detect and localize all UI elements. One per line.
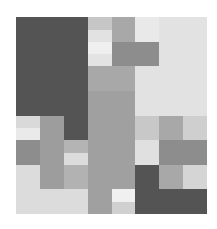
heatmap-cell xyxy=(112,66,136,91)
heatmap-cell xyxy=(135,189,159,214)
heatmap-cell xyxy=(88,140,112,165)
heatmap-cell xyxy=(16,66,40,91)
heatmap-cell xyxy=(16,189,40,214)
heatmap-cell xyxy=(135,17,159,42)
heatmap-cell xyxy=(112,189,136,214)
heatmap-cell xyxy=(183,91,207,116)
heatmap-cell xyxy=(159,66,183,91)
heatmap-cell xyxy=(88,42,112,67)
heatmap-cell xyxy=(159,91,183,116)
heatmap-cell xyxy=(183,116,207,141)
heatmap-cell xyxy=(88,17,112,42)
heatmap-cell xyxy=(16,116,40,141)
heatmap-cell xyxy=(64,189,88,214)
heatmap-cell xyxy=(183,42,207,67)
heatmap-cell xyxy=(135,165,159,190)
heatmap-cell xyxy=(16,91,40,116)
heatmap-cell xyxy=(88,66,112,91)
heatmap-cell xyxy=(40,17,64,42)
heatmap-cell xyxy=(88,165,112,190)
heatmap-cell xyxy=(64,116,88,141)
heatmap-cell xyxy=(64,66,88,91)
heatmap-cell xyxy=(40,42,64,67)
heatmap-cell xyxy=(135,42,159,67)
heatmap-cell xyxy=(159,17,183,42)
heatmap-cell xyxy=(159,42,183,67)
figure-canvas xyxy=(0,0,217,229)
heatmap-cell xyxy=(112,165,136,190)
heatmap-cell xyxy=(40,140,64,165)
heatmap-cell xyxy=(159,116,183,141)
heatmap-cell xyxy=(112,17,136,42)
heatmap-cell xyxy=(40,91,64,116)
heatmap-cell xyxy=(183,17,207,42)
heatmap-cell xyxy=(64,140,88,165)
heatmap-cell xyxy=(64,17,88,42)
heatmap-cell xyxy=(112,91,136,116)
heatmap-cell xyxy=(159,140,183,165)
heatmap-grid xyxy=(16,17,207,214)
heatmap-cell xyxy=(183,165,207,190)
heatmap-cell xyxy=(135,91,159,116)
heatmap-cell xyxy=(112,116,136,141)
heatmap-cell xyxy=(16,42,40,67)
heatmap-cell xyxy=(40,165,64,190)
heatmap-cell xyxy=(88,116,112,141)
heatmap-cell xyxy=(16,140,40,165)
heatmap-cell xyxy=(40,116,64,141)
heatmap-cell xyxy=(183,189,207,214)
heatmap-cell xyxy=(183,140,207,165)
heatmap-cell xyxy=(112,42,136,67)
heatmap-cell xyxy=(159,165,183,190)
heatmap-cell xyxy=(88,189,112,214)
heatmap-cell xyxy=(64,91,88,116)
heatmap-cell xyxy=(135,116,159,141)
heatmap-cell xyxy=(40,66,64,91)
heatmap-cell xyxy=(135,140,159,165)
heatmap-cell xyxy=(135,66,159,91)
heatmap-cell xyxy=(64,42,88,67)
heatmap-cell xyxy=(40,189,64,214)
heatmap-cell xyxy=(64,165,88,190)
heatmap-cell xyxy=(16,165,40,190)
heatmap-cell xyxy=(16,17,40,42)
heatmap-cell xyxy=(88,91,112,116)
heatmap-cell xyxy=(159,189,183,214)
heatmap-cell xyxy=(183,66,207,91)
heatmap-cell xyxy=(112,140,136,165)
